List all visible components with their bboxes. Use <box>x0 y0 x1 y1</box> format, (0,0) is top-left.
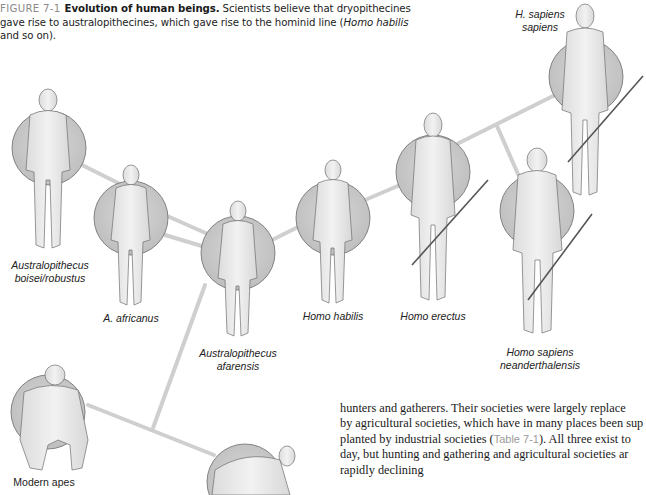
label-line: H. sapiens <box>500 8 580 21</box>
body-line: planted by industrial societies (Table 7… <box>340 432 646 447</box>
label-line: Modern apes <box>0 476 88 489</box>
branch-africanus-afarensis-b <box>165 235 205 247</box>
figure-boisei-icon <box>26 89 70 248</box>
branch-habilis-erectus <box>365 185 400 200</box>
label-line: A. africanus <box>85 312 177 325</box>
label-line: sapiens <box>500 21 580 34</box>
body-line: by agricultural societies, which have in… <box>340 416 646 431</box>
body-paragraph: hunters and gatherers. Their societies w… <box>340 401 646 478</box>
label-afarensis: Australopithecus afarensis <box>188 347 288 372</box>
body-text-span: ). All three exist to <box>539 432 631 446</box>
table-reference-link[interactable]: Table 7-1 <box>494 433 539 445</box>
label-modern-apes: Modern apes <box>0 476 88 489</box>
branch-apes-dryopithecines <box>88 405 214 455</box>
label-sapiens: H. sapiens sapiens <box>500 8 580 33</box>
label-line: afarensis <box>188 360 288 373</box>
label-line: Homo sapiens <box>490 346 590 359</box>
body-line: rapidly declining <box>340 463 646 478</box>
branch-boisei-africanus <box>82 165 120 184</box>
label-line: Australopithecus <box>188 347 288 360</box>
label-habilis: Homo habilis <box>290 310 376 323</box>
branch-to-neanderthal <box>497 126 518 174</box>
label-africanus: A. africanus <box>85 312 177 325</box>
branch-erectus-sapiens <box>455 95 555 145</box>
label-line: boisei/robustus <box>0 272 100 285</box>
label-line: Homo erectus <box>390 310 476 323</box>
label-erectus: Homo erectus <box>390 310 476 323</box>
body-line: hunters and gatherers. Their societies w… <box>340 401 646 416</box>
branch-afarensis-habilis <box>272 226 300 240</box>
branch-africanus-afarensis-a <box>165 215 210 235</box>
label-neanderthalensis: Homo sapiens neanderthalensis <box>490 346 590 371</box>
label-line: neanderthalensis <box>490 359 590 372</box>
body-line: day, but hunting and gathering and agric… <box>340 447 646 462</box>
body-text-span: planted by industrial societies ( <box>340 432 494 446</box>
label-line: Australopithecus <box>0 259 100 272</box>
figure-erectus-icon <box>411 113 488 300</box>
label-boisei: Australopithecus boisei/robustus <box>0 259 100 284</box>
label-line: Homo habilis <box>290 310 376 323</box>
figure-habilis-icon <box>313 160 352 303</box>
